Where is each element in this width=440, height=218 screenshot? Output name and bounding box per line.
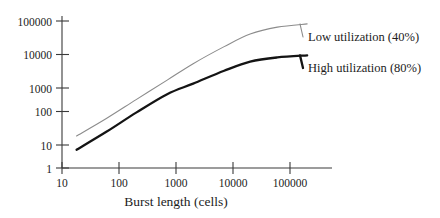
y-tick-label-10: 10 <box>41 140 53 152</box>
leader-lines-group <box>300 24 303 68</box>
x-tick-label-100000: 100000 <box>273 177 308 189</box>
y-tick-label-100000: 100000 <box>18 16 53 28</box>
series-line-low-utilization <box>77 24 308 136</box>
y-axis-tick-labels: 100000 10000 1000 100 10 1 <box>18 16 53 175</box>
x-tick-label-100: 100 <box>110 177 128 189</box>
x-axis-title: Burst length (cells) <box>124 194 227 209</box>
y-tick-label-1: 1 <box>46 163 52 175</box>
x-axis-tick-labels: 10 100 1000 10000 100000 <box>56 177 307 189</box>
series-label-high-utilization: High utilization (80%) <box>308 61 421 75</box>
series-label-low-utilization: Low utilization (40%) <box>308 30 419 44</box>
log-log-line-chart: 100000 10000 1000 100 10 1 10 100 1000 1… <box>0 0 440 218</box>
leader-line-high-utilization <box>300 55 303 68</box>
y-tick-label-1000: 1000 <box>29 83 52 95</box>
series-group <box>77 24 308 150</box>
series-labels-group: Low utilization (40%) High utilization (… <box>308 30 421 75</box>
chart-figure: 100000 10000 1000 100 10 1 10 100 1000 1… <box>0 0 440 218</box>
y-tick-label-10000: 10000 <box>23 49 52 61</box>
x-tick-label-1000: 1000 <box>165 177 188 189</box>
x-tick-label-10000: 10000 <box>219 177 248 189</box>
leader-line-low-utilization <box>300 24 303 37</box>
y-tick-label-100: 100 <box>35 106 53 118</box>
axes-group <box>62 16 332 168</box>
series-line-high-utilization <box>77 55 308 149</box>
x-tick-label-10: 10 <box>56 177 68 189</box>
